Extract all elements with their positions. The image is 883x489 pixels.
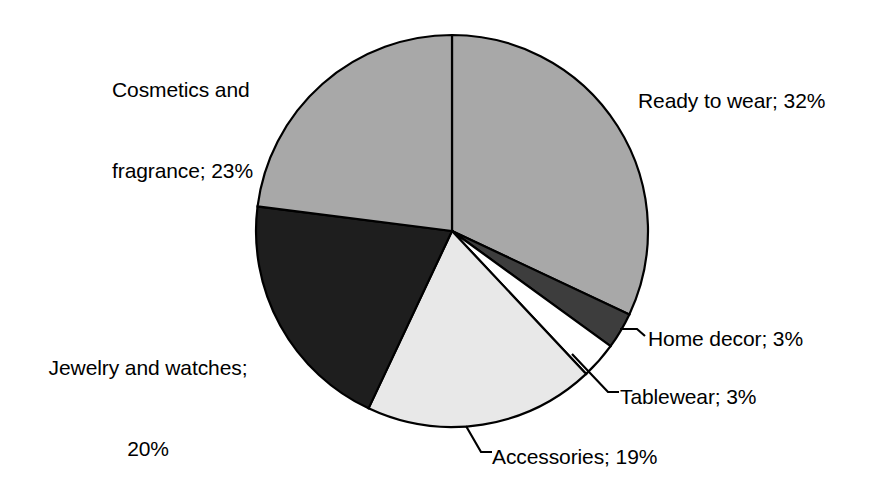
slice-label-ready-to-wear: Ready to wear; 32% xyxy=(638,87,825,114)
slice-label-cosmetics-line1: Cosmetics and xyxy=(112,76,253,103)
pie-slice-cosmetics-and-fragrance[interactable] xyxy=(258,35,452,231)
slice-label-jewelry-line1: Jewelry and watches; xyxy=(22,354,274,381)
slice-label-jewelry-line2: 20% xyxy=(22,435,274,462)
slice-label-tablewear: Tablewear; 3% xyxy=(620,383,756,410)
slice-label-home-decor: Home decor; 3% xyxy=(648,325,803,352)
leader-line-home-decor xyxy=(620,329,645,336)
slice-label-cosmetics-and-fragrance: Cosmetics and fragrance; 23% xyxy=(112,22,253,238)
slice-label-accessories: Accessories; 19% xyxy=(492,443,657,470)
leader-line-accessories xyxy=(466,426,492,452)
slice-label-jewelry-and-watches: Jewelry and watches; 20% xyxy=(22,300,274,489)
slice-label-cosmetics-line2: fragrance; 23% xyxy=(112,157,253,184)
pie-chart: Cosmetics and fragrance; 23% Ready to we… xyxy=(0,0,883,489)
